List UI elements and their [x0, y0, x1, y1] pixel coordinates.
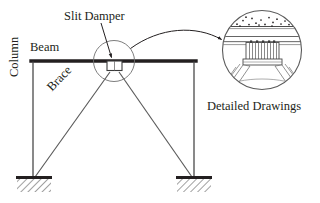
detail-slit-damper-plate [246, 40, 279, 59]
label-detailed-drawings: Detailed Drawings [207, 99, 301, 114]
brace-right-member [119, 72, 192, 177]
slit-damper-leader-line [101, 23, 112, 58]
support-left [16, 178, 52, 193]
brace-left-member [35, 72, 110, 177]
detail-callout-leader-curve [131, 30, 222, 48]
label-slit-damper: Slit Damper [64, 9, 125, 24]
label-column: Column [7, 37, 22, 77]
support-right [176, 178, 212, 193]
detail-drawing-circle [218, 11, 306, 90]
label-beam: Beam [30, 40, 59, 55]
figure-canvas: Slit Damper Beam Column Brace Detailed D… [0, 0, 320, 203]
